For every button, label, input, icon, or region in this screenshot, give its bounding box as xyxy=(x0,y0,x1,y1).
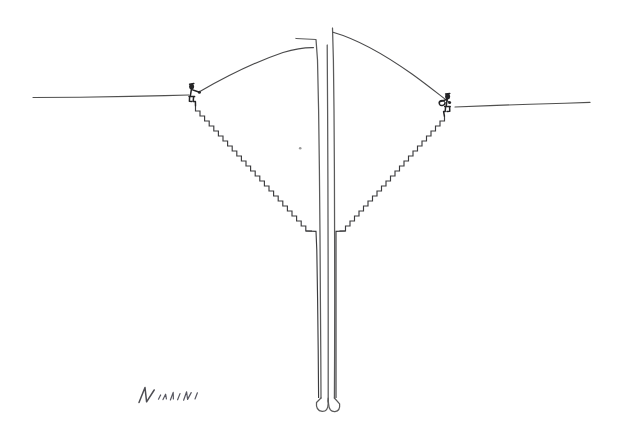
paper-background xyxy=(0,0,617,443)
line-drawing-svg xyxy=(0,0,617,443)
figure-right-cap xyxy=(446,93,450,94)
ink-speck xyxy=(299,147,302,150)
figure-right-hand xyxy=(448,101,451,104)
figure-left-cap xyxy=(190,84,194,85)
figure-left-hand xyxy=(198,91,201,94)
drawing-canvas: Untitled pen-and-ink line drawing ink on… xyxy=(0,0,617,443)
